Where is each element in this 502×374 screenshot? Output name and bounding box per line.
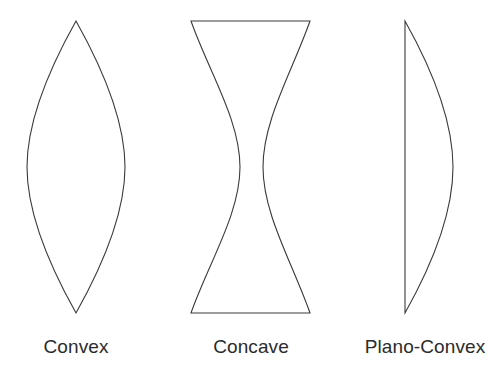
lens-label-concave: Concave (175, 336, 327, 358)
lens-shapes-canvas (0, 0, 502, 374)
lens-diagram: Convex Concave Plano-Convex (0, 0, 502, 374)
concave-lens-shape (191, 21, 310, 313)
plano-convex-lens-shape (405, 21, 453, 313)
convex-lens-shape (27, 21, 125, 313)
lens-label-convex: Convex (0, 336, 152, 358)
lens-label-plano-convex: Plano-Convex (345, 336, 502, 358)
